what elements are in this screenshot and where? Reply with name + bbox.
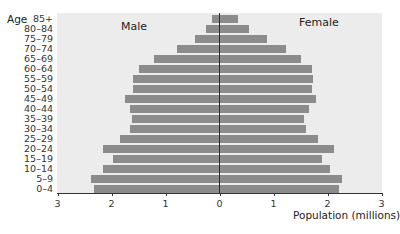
female-bar — [220, 25, 250, 34]
x-tick-label: 2 — [102, 198, 122, 209]
male-bar — [133, 75, 219, 84]
male-bar — [125, 95, 220, 104]
x-axis-title: Population (millions) — [293, 209, 400, 221]
male-bar — [130, 125, 220, 134]
male-bar — [177, 45, 220, 54]
female-bar — [220, 105, 310, 114]
male-bar — [206, 25, 220, 34]
female-bar — [220, 85, 312, 94]
x-tick-label: 0 — [210, 198, 230, 209]
female-bar — [220, 15, 238, 24]
male-bar — [103, 165, 220, 174]
x-tick — [220, 193, 221, 196]
male-bar — [139, 65, 219, 74]
female-bar — [220, 45, 286, 54]
female-bar — [220, 35, 268, 44]
x-tick — [328, 193, 329, 196]
x-tick — [112, 193, 113, 196]
female-bar — [220, 75, 313, 84]
plot-area — [57, 13, 382, 193]
male-bar — [103, 145, 220, 154]
x-tick-label: 3 — [48, 198, 68, 209]
x-tick — [166, 193, 167, 196]
female-bar — [220, 135, 318, 144]
x-tick-label: 1 — [264, 198, 284, 209]
female-bar — [220, 155, 323, 164]
x-tick — [58, 193, 59, 196]
female-series-label: Female — [299, 16, 339, 29]
male-series-label: Male — [121, 20, 147, 33]
female-bar — [220, 145, 334, 154]
female-bar — [220, 125, 306, 134]
x-tick — [382, 193, 383, 196]
male-bar — [91, 175, 220, 184]
x-tick-label: 1 — [156, 198, 176, 209]
female-bar — [220, 165, 331, 174]
x-tick-label: 2 — [318, 198, 338, 209]
female-bar — [220, 65, 312, 74]
age-group-label: 0–4 — [36, 184, 53, 194]
male-bar — [113, 155, 219, 164]
female-bar — [220, 115, 305, 124]
center-axis-line — [219, 13, 220, 193]
male-bar — [130, 105, 220, 114]
male-bar — [195, 35, 219, 44]
x-tick-label: 3 — [372, 198, 392, 209]
female-bar — [220, 95, 317, 104]
male-bar — [133, 85, 219, 94]
female-bar — [220, 55, 302, 64]
male-bar — [132, 115, 219, 124]
male-bar — [120, 135, 219, 144]
male-bar — [154, 55, 219, 64]
female-bar — [220, 175, 343, 184]
x-tick — [274, 193, 275, 196]
